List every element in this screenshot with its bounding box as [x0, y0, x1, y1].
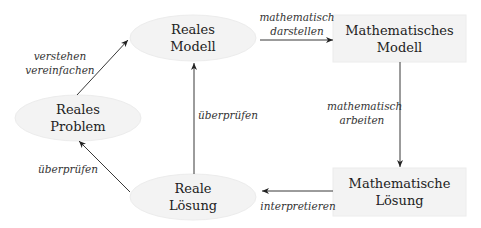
node-label-line2: Modell — [333, 39, 466, 56]
node-reale-loesung: Reale Lösung — [133, 180, 253, 214]
node-reales-modell: Reales Modell — [133, 21, 253, 55]
edge-label-line1: interpretieren — [258, 199, 338, 213]
edge-label-verstehen-vereinfachen: verstehen vereinfachen — [20, 49, 100, 77]
node-label-line2: Lösung — [333, 192, 466, 209]
edge-label-line1: überprüfen — [196, 108, 260, 122]
edge-label-line1: mathematisch — [252, 10, 342, 24]
edge-label-line1: verstehen — [20, 49, 100, 63]
node-reales-problem: Reales Problem — [18, 101, 138, 135]
edge-label-interpretieren: interpretieren — [258, 199, 338, 213]
node-math-loesung: Mathematische Lösung — [333, 175, 466, 209]
edge-label-line1: mathematisch — [327, 99, 397, 113]
edge-label-line2: vereinfachen — [20, 63, 100, 77]
edge-label-line2: darstellen — [252, 24, 342, 38]
node-label-line1: Mathematisches — [333, 22, 466, 39]
edge-label-mathematisch-darstellen: mathematisch darstellen — [252, 10, 342, 38]
node-label-line1: Reales — [18, 101, 138, 118]
node-label-line1: Reale — [133, 180, 253, 197]
node-label-line1: Reales — [133, 21, 253, 38]
node-math-modell: Mathematisches Modell — [333, 22, 466, 56]
edge-label-line1: überprüfen — [36, 162, 100, 176]
node-label-line1: Mathematische — [333, 175, 466, 192]
node-label-line2: Problem — [18, 118, 138, 135]
edge-label-ueberpruefen-modell: überprüfen — [196, 108, 260, 122]
edge-label-line2: arbeiten — [327, 113, 397, 127]
edge-label-mathematisch-arbeiten: mathematisch arbeiten — [327, 99, 397, 127]
node-label-line2: Modell — [133, 38, 253, 55]
node-label-line2: Lösung — [133, 197, 253, 214]
edge-label-ueberpruefen-problem: überprüfen — [36, 162, 100, 176]
